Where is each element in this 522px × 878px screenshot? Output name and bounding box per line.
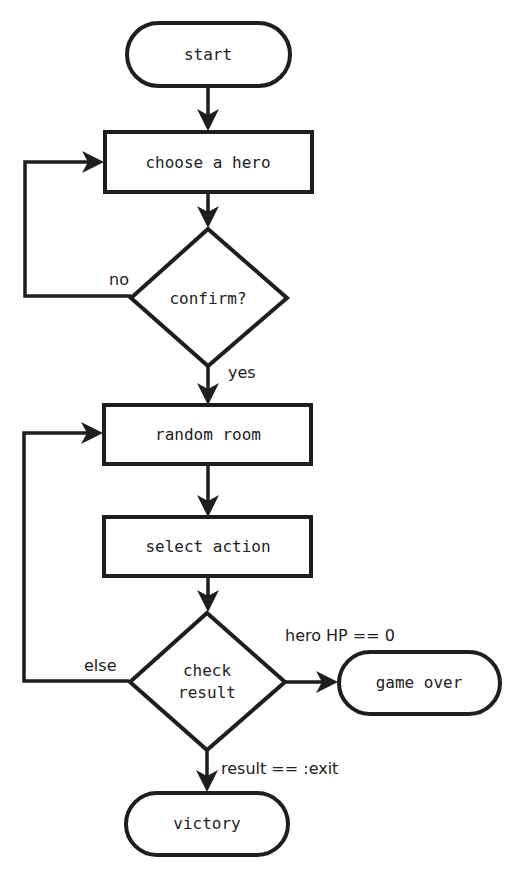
node-label: game over	[376, 673, 463, 692]
decision-shape	[130, 613, 285, 750]
edge-choose-hero-to-confirm	[197, 193, 219, 228]
edge-start-to-choose-hero	[197, 86, 219, 131]
edge-check-result-to-victory: result == :exit	[196, 750, 338, 792]
node-label: choose a hero	[145, 153, 270, 172]
edge-confirm-yes: yes	[197, 363, 256, 405]
node-game-over: game over	[339, 652, 500, 714]
edge-label-hero-hp-zero: hero HP == 0	[285, 626, 395, 645]
node-select-action: select action	[104, 517, 311, 576]
node-confirm: confirm?	[131, 229, 287, 366]
node-random-room: random room	[104, 405, 311, 464]
edge-random-room-to-select-action	[197, 464, 219, 517]
node-choose-a-hero: choose a hero	[105, 132, 312, 192]
node-start: start	[127, 23, 290, 86]
node-label: start	[184, 45, 232, 64]
node-label: confirm?	[169, 289, 246, 308]
node-label: select action	[145, 537, 270, 556]
edge-label-else: else	[84, 656, 116, 675]
node-victory: victory	[126, 793, 288, 855]
edge-select-action-to-check-result	[197, 576, 219, 612]
node-check-result: check result	[130, 613, 285, 750]
flowchart-diagram: no yes else hero HP == 0 result == :exit…	[0, 0, 522, 878]
node-label-line2: result	[178, 683, 236, 702]
edge-label-no: no	[109, 270, 129, 289]
edge-label-result-exit: result == :exit	[221, 759, 338, 778]
edge-label-yes: yes	[228, 363, 256, 382]
node-label: random room	[155, 425, 261, 444]
node-label-line1: check	[183, 661, 232, 680]
node-label: victory	[173, 814, 241, 833]
